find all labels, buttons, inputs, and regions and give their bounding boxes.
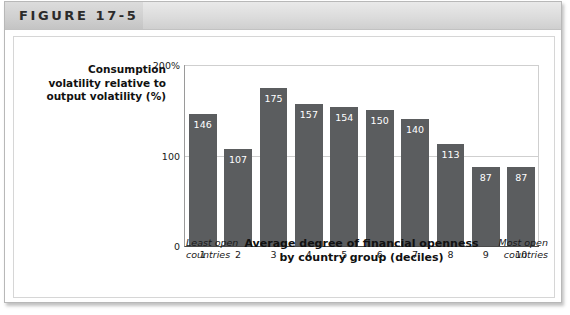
bar-2[interactable]: 107: [224, 149, 252, 246]
bar-1[interactable]: 146: [189, 114, 217, 246]
bar-10[interactable]: 87: [507, 167, 535, 246]
bar-value-label: 175: [260, 93, 288, 104]
y-axis-tick-label: 100: [162, 150, 180, 161]
bar-value-label: 146: [189, 119, 217, 130]
y-axis-title-line-0: Consumption: [26, 63, 166, 77]
bar-8[interactable]: 113: [437, 144, 465, 246]
figure-body-panel: Consumptionvolatility relative tooutput …: [13, 36, 555, 298]
bar-value-label: 113: [437, 149, 465, 160]
bar-5[interactable]: 154: [330, 107, 358, 246]
gridline-200: [185, 65, 539, 66]
figure-number-label: FIGURE 17-5: [19, 8, 139, 23]
plot-area: 0100200%14611072175315741545150614071138…: [184, 65, 539, 247]
bar-value-label: 107: [224, 154, 252, 165]
y-axis-title-line-1: volatility relative to: [26, 77, 166, 91]
bar-9[interactable]: 87: [472, 167, 500, 246]
bar-7[interactable]: 140: [401, 119, 429, 246]
y-axis-title-line-2: output volatility (%): [26, 90, 166, 104]
bar-value-label: 87: [507, 172, 535, 183]
y-axis-tick-label: 200%: [153, 60, 180, 71]
bar-6[interactable]: 150: [366, 110, 394, 246]
bar-value-label: 157: [295, 109, 323, 120]
bar-value-label: 150: [366, 115, 394, 126]
bar-value-label: 154: [330, 112, 358, 123]
figure-frame: FIGURE 17-5 Consumptionvolatility relati…: [4, 1, 562, 303]
y-axis-tick-label: 0: [174, 241, 180, 252]
x-caption-right-line-1: countries: [464, 249, 548, 261]
bar-4[interactable]: 157: [295, 104, 323, 246]
x-caption-right-line-0: Most open: [464, 237, 548, 249]
y-axis-title: Consumptionvolatility relative tooutput …: [26, 63, 166, 104]
bar-3[interactable]: 175: [260, 88, 288, 246]
x-axis-caption-right: Most opencountries: [464, 237, 548, 261]
bar-value-label: 140: [401, 124, 429, 135]
bar-value-label: 87: [472, 172, 500, 183]
figure-header-band: FIGURE 17-5: [5, 2, 561, 30]
